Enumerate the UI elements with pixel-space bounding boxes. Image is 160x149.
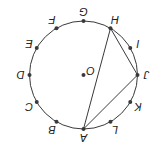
point-k: K [128,100,141,113]
point-i: I [128,38,139,51]
point-dot-g [82,19,86,23]
point-label-c: C [25,101,33,113]
point-dot-a [82,127,86,131]
center-point-group: O [82,65,95,77]
point-dot-j [136,73,140,77]
segment-hj [111,28,138,75]
triangle-segments [84,28,138,129]
point-label-b: B [48,124,55,136]
point-e: E [25,38,39,51]
point-label-l: L [112,124,118,136]
center-point-o [82,73,86,77]
point-l: L [109,120,119,136]
point-label-e: E [25,38,33,50]
point-label-d: D [16,69,24,81]
point-dot-d [28,73,32,77]
point-f: F [47,14,58,30]
center-label: O [86,65,95,77]
point-g: G [79,6,88,23]
point-h: H [109,14,119,30]
point-dot-b [55,120,59,124]
point-a: A [80,127,88,144]
point-dot-e [35,46,39,50]
point-c: C [25,100,39,113]
point-label-f: F [47,14,55,26]
point-dot-i [128,46,132,50]
circle-diagram: ABCDEFGHIJKL O [0,0,160,149]
segment-ah [84,28,111,129]
point-label-i: I [137,38,140,50]
point-dot-c [35,100,39,104]
point-label-h: H [111,14,119,26]
point-label-g: G [79,6,88,18]
point-label-j: J [143,69,150,81]
point-dot-k [128,100,132,104]
point-dot-l [109,120,113,124]
point-label-k: K [134,101,142,113]
point-label-a: A [80,132,88,144]
rotated-diagram-group: ABCDEFGHIJKL O [16,6,150,144]
point-b: B [48,120,58,136]
